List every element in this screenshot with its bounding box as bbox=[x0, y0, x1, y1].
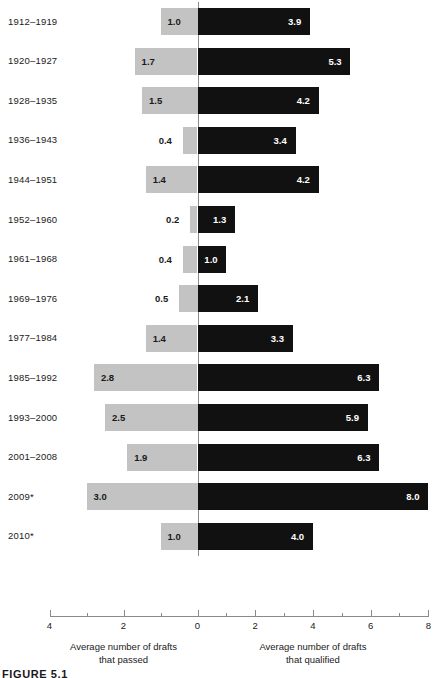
bar-value-passed: 1.7 bbox=[142, 48, 155, 75]
bar-value-qualified: 2.1 bbox=[236, 285, 249, 312]
bar-value-qualified: 6.3 bbox=[357, 444, 370, 471]
bar-passed bbox=[179, 285, 198, 312]
bar-value-qualified: 3.3 bbox=[271, 325, 284, 352]
bar-value-qualified: 4.2 bbox=[297, 87, 310, 114]
axis-tick-minor bbox=[342, 613, 343, 617]
axis-tick-major bbox=[198, 610, 199, 617]
axis-tick-minor bbox=[87, 613, 88, 617]
bar-value-qualified: 4.0 bbox=[291, 523, 304, 550]
bar-value-qualified: 6.3 bbox=[357, 364, 370, 391]
axis-tick-major bbox=[50, 610, 51, 617]
bar-value-passed: 1.0 bbox=[168, 523, 181, 550]
axis-title-right-line2: that qualified bbox=[259, 654, 366, 667]
bar-qualified bbox=[198, 483, 429, 510]
category-label: 2010* bbox=[8, 530, 100, 541]
axis-tick-major bbox=[255, 610, 256, 617]
figure-container: 1.03.91.75.31.54.20.43.41.44.20.21.30.41… bbox=[0, 0, 439, 678]
bar-value-passed: 0.2 bbox=[166, 206, 179, 233]
bar-qualified bbox=[198, 364, 380, 391]
axis-tick-minor bbox=[226, 613, 227, 617]
bar-passed bbox=[183, 246, 198, 273]
category-label: 1920–1927 bbox=[8, 55, 100, 66]
bar-value-passed: 0.4 bbox=[159, 246, 172, 273]
category-label: 1912–1919 bbox=[8, 16, 100, 27]
category-label: 1985–1992 bbox=[8, 372, 100, 383]
axis-tick-major bbox=[428, 610, 429, 617]
category-label: 2001–2008 bbox=[8, 451, 100, 462]
axis-title-right: Average number of drafts that qualified bbox=[259, 641, 366, 666]
bar-passed bbox=[183, 127, 198, 154]
category-label: 1977–1984 bbox=[8, 332, 100, 343]
axis-title-left-line2: that passed bbox=[70, 654, 177, 667]
bar-value-qualified: 1.3 bbox=[213, 206, 226, 233]
zero-axis-line bbox=[198, 2, 199, 556]
bar-passed bbox=[190, 206, 197, 233]
bar-value-qualified: 5.3 bbox=[328, 48, 341, 75]
bar-value-passed: 1.9 bbox=[134, 444, 147, 471]
bar-value-qualified: 8.0 bbox=[406, 483, 419, 510]
bar-value-qualified: 4.2 bbox=[297, 166, 310, 193]
bar-value-passed: 2.8 bbox=[101, 364, 114, 391]
axis-tick-major bbox=[371, 610, 372, 617]
axis-tick-major bbox=[313, 610, 314, 617]
bar-value-passed: 1.4 bbox=[153, 325, 166, 352]
axis-tick-label: 2 bbox=[253, 620, 258, 631]
axis-tick-major bbox=[124, 610, 125, 617]
category-label: 1993–2000 bbox=[8, 412, 100, 423]
bar-value-passed: 2.5 bbox=[112, 404, 125, 431]
axis-tick-minor bbox=[284, 613, 285, 617]
category-label: 1944–1951 bbox=[8, 174, 100, 185]
axis-title-right-line1: Average number of drafts bbox=[259, 641, 366, 654]
axis-tick-label: 4 bbox=[310, 620, 315, 631]
bar-qualified bbox=[198, 444, 380, 471]
bar-value-qualified: 5.9 bbox=[346, 404, 359, 431]
bar-value-passed: 1.5 bbox=[149, 87, 162, 114]
bar-qualified bbox=[198, 404, 368, 431]
axis-title-left-line1: Average number of drafts bbox=[70, 641, 177, 654]
axis-tick-label: 4 bbox=[47, 620, 52, 631]
axis-tick-label: 8 bbox=[426, 620, 431, 631]
bar-value-qualified: 3.9 bbox=[288, 8, 301, 35]
bar-value-passed: 0.5 bbox=[155, 285, 168, 312]
bar-value-passed: 1.0 bbox=[168, 8, 181, 35]
category-label: 2009* bbox=[8, 491, 100, 502]
axis-tick-minor bbox=[161, 613, 162, 617]
bar-value-qualified: 1.0 bbox=[204, 246, 217, 273]
axis-tick-label: 2 bbox=[121, 620, 126, 631]
bar-value-qualified: 3.4 bbox=[274, 127, 287, 154]
category-label: 1936–1943 bbox=[8, 134, 100, 145]
category-label: 1952–1960 bbox=[8, 214, 100, 225]
category-label: 1969–1976 bbox=[8, 293, 100, 304]
axis-tick-label: 0 bbox=[195, 620, 200, 631]
bar-value-passed: 0.4 bbox=[159, 127, 172, 154]
axis-title-left: Average number of drafts that passed bbox=[70, 641, 177, 666]
category-label: 1961–1968 bbox=[8, 253, 100, 264]
axis-tick-label: 6 bbox=[368, 620, 373, 631]
axis-tick-minor bbox=[399, 613, 400, 617]
bar-value-passed: 1.4 bbox=[153, 166, 166, 193]
category-label: 1928–1935 bbox=[8, 95, 100, 106]
figure-caption: FIGURE 5.1 bbox=[2, 668, 68, 678]
